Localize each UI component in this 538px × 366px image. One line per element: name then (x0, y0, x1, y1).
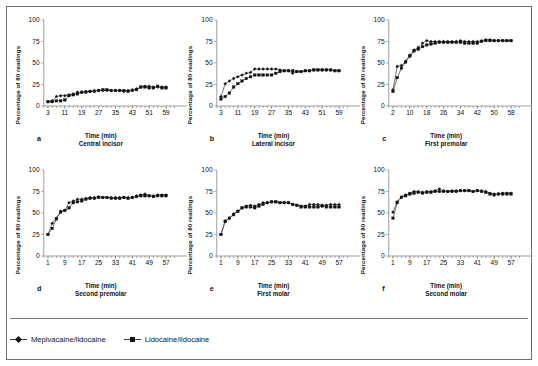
data-point (287, 201, 290, 204)
svg-text:0: 0 (381, 252, 385, 259)
data-point (455, 190, 458, 193)
data-point (257, 205, 260, 208)
svg-text:1: 1 (46, 260, 50, 267)
x-axis-title: Time (min) (23, 132, 179, 140)
svg-text:57: 57 (162, 260, 170, 267)
data-point (265, 68, 268, 71)
data-point (506, 193, 509, 196)
data-point (63, 94, 66, 97)
panel-captions: Time (min)Central incisor (23, 132, 179, 148)
data-point (497, 193, 500, 196)
data-point (76, 93, 79, 96)
data-point (308, 206, 311, 209)
data-point (316, 203, 319, 206)
chart-svg: 025507510019172533414957 (23, 166, 179, 276)
series-line-mepivacaine (393, 40, 511, 90)
legend-label: Mepivacaine/lidocaine (31, 335, 106, 344)
svg-text:57: 57 (508, 260, 516, 267)
svg-text:75: 75 (32, 38, 40, 45)
data-point (236, 210, 239, 213)
panel-letter: b (210, 134, 214, 143)
data-point (312, 203, 315, 206)
data-point (118, 89, 121, 92)
data-point (101, 196, 104, 199)
data-point (274, 68, 277, 71)
data-point (224, 95, 227, 98)
data-point (123, 196, 126, 199)
panel-f: Percentage of 80 readings025507510019172… (355, 160, 528, 310)
svg-text:49: 49 (491, 260, 499, 267)
svg-text:25: 25 (32, 81, 40, 88)
data-point (434, 42, 437, 45)
data-point (89, 197, 92, 200)
legend: Mepivacaine/lidocaine Lidocaine/lidocain… (10, 318, 528, 352)
data-point (316, 69, 319, 72)
data-point (127, 90, 130, 93)
data-point (219, 98, 222, 101)
data-point (422, 45, 425, 48)
data-point (295, 70, 298, 73)
data-point (485, 39, 488, 42)
data-point (417, 191, 420, 194)
panel-c: Percentage of 80 readings025507510021018… (355, 10, 528, 160)
x-axis-title: Time (min) (196, 132, 352, 140)
data-point (244, 72, 247, 75)
data-point (321, 69, 324, 72)
legend-label: Lidocaine/lidocaine (145, 335, 210, 344)
data-point (283, 201, 286, 204)
data-point (464, 189, 467, 192)
svg-text:100: 100 (374, 166, 385, 173)
data-point (295, 204, 298, 207)
data-point (308, 203, 311, 206)
panel-captions: Time (min)First premolar (368, 132, 524, 148)
data-point (308, 69, 311, 72)
plot-area: 025507510019172533414957Time (min)Second… (368, 160, 528, 310)
panel-captions: Time (min)Second molar (368, 282, 524, 298)
plot-canvas: 025507510019172533414957 (23, 166, 179, 276)
data-point (270, 201, 273, 204)
svg-text:50: 50 (205, 59, 213, 66)
data-point (135, 195, 138, 198)
data-point (236, 82, 239, 85)
svg-text:1: 1 (391, 260, 395, 267)
data-point (249, 75, 252, 78)
data-point (240, 207, 243, 210)
data-point (219, 233, 222, 236)
data-point (68, 94, 71, 97)
panel-letter: f (382, 284, 384, 293)
data-point (468, 189, 471, 192)
chart-svg: 0255075100311192735435159 (196, 16, 352, 126)
data-point (299, 206, 302, 209)
data-point (51, 227, 54, 230)
svg-text:17: 17 (423, 260, 431, 267)
svg-text:50: 50 (32, 209, 40, 216)
data-point (101, 88, 104, 91)
data-point (148, 87, 151, 90)
data-point (426, 191, 429, 194)
plot-canvas: 025507510019172533414957 (196, 166, 352, 276)
data-point (472, 190, 475, 193)
data-point (148, 195, 151, 198)
data-point (329, 69, 332, 72)
data-point (97, 196, 100, 199)
svg-text:50: 50 (32, 59, 40, 66)
data-point (443, 190, 446, 193)
data-point (396, 65, 399, 68)
data-point (257, 68, 260, 71)
data-point (106, 196, 109, 199)
data-point (329, 206, 332, 209)
data-point (510, 193, 513, 196)
data-point (110, 197, 113, 200)
data-point (329, 203, 332, 206)
data-point (451, 41, 454, 44)
series-line-lidocaine (393, 41, 511, 92)
y-axis-title-text: Percentage of 80 readings (186, 196, 193, 274)
svg-text:0: 0 (36, 252, 40, 259)
data-point (476, 42, 479, 45)
svg-text:2: 2 (391, 110, 395, 117)
data-point (476, 189, 479, 192)
svg-text:50: 50 (491, 110, 499, 117)
data-point (59, 211, 62, 214)
svg-text:3: 3 (46, 110, 50, 117)
data-point (253, 207, 256, 210)
